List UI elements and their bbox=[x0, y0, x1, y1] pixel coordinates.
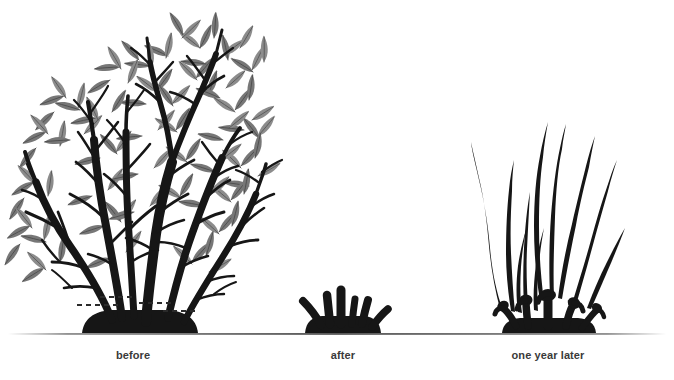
ground-line bbox=[8, 333, 666, 335]
panel-one-year-later bbox=[471, 122, 625, 333]
pruning-diagram-svg bbox=[0, 0, 674, 380]
year-later-shoots bbox=[471, 122, 625, 313]
panel-after bbox=[303, 290, 388, 333]
after-stubs bbox=[303, 290, 388, 327]
caption-before: before bbox=[116, 349, 150, 361]
illustration-canvas: before after one year later bbox=[0, 0, 674, 380]
caption-one-year-later: one year later bbox=[512, 349, 585, 361]
caption-after: after bbox=[331, 349, 355, 361]
panel-before bbox=[0, 11, 282, 333]
